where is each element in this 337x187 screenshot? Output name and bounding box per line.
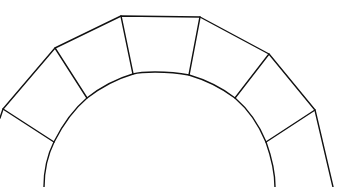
voussoir-joints: [3, 16, 315, 142]
voussoir-joint-line: [235, 54, 269, 98]
arch-diagram: [0, 0, 337, 187]
arch-outer-edge: [0, 16, 333, 187]
voussoir-joint-line: [266, 110, 315, 142]
arch-inner-curve: [44, 72, 275, 187]
voussoir-joint-line: [189, 17, 200, 75]
voussoir-joint-line: [55, 48, 87, 98]
voussoir-joint-line: [121, 16, 133, 74]
voussoir-joint-line: [3, 109, 54, 142]
